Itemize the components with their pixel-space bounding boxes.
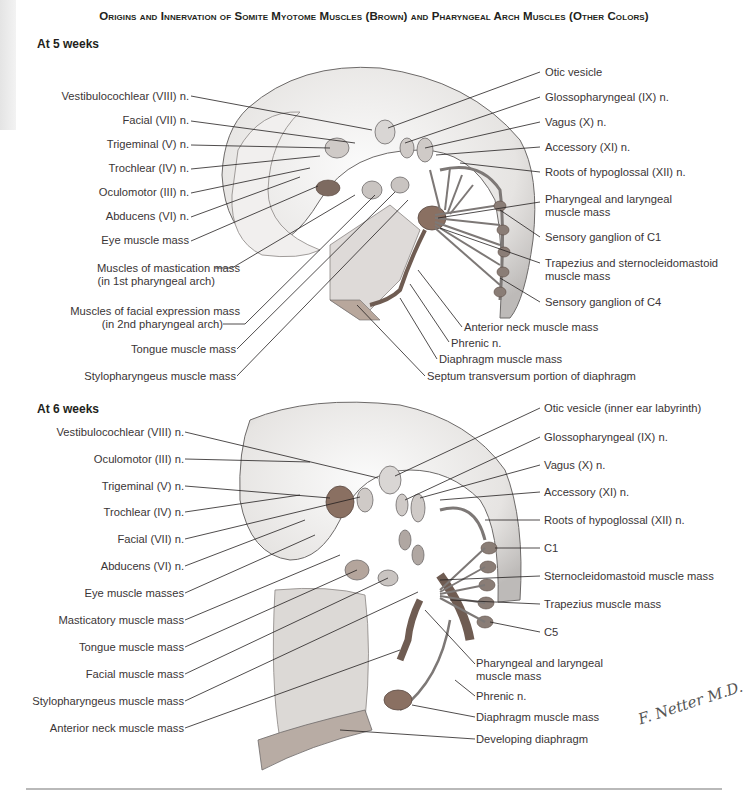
label-masticatory-muscle-mass: Masticatory muscle mass — [58, 614, 184, 627]
label-anterior-neck-muscle-mass: Anterior neck muscle mass — [464, 321, 598, 334]
label-vestibulocochlear-n-6w: Vestibulocochlear (VIII) n. — [57, 426, 184, 439]
label-otic-vesicle: Otic vesicle — [545, 66, 602, 79]
label-roots-of-hypoglossal-n-6w: Roots of hypoglossal (XII) n. — [544, 514, 685, 527]
label-developing-diaphragm: Developing diaphragm — [476, 733, 588, 746]
label-trapezius-muscle-mass: Trapezius muscle mass — [544, 598, 661, 611]
label-facial-n: Facial (VII) n. — [122, 114, 189, 127]
label-trigeminal-n: Trigeminal (V) n. — [107, 138, 189, 151]
label-facial-n-6w: Facial (VII) n. — [117, 533, 184, 546]
label-anterior-neck-muscle-mass-6w: Anterior neck muscle mass — [50, 722, 184, 735]
panel-heading-5-weeks: At 5 weeks — [37, 37, 99, 51]
label-roots-of-hypoglossal-n: Roots of hypoglossal (XII) n. — [545, 166, 686, 179]
label-diaphragm-muscle-mass-6w: Diaphragm muscle mass — [476, 711, 599, 724]
label-abducens-n: Abducens (VI) n. — [106, 210, 189, 223]
label-trochlear-n-6w: Trochlear (IV) n. — [104, 506, 184, 519]
label-mastication-mass-note: (in 1st pharyngeal arch) — [97, 275, 215, 288]
label-glossopharyngeal-n-6w: Glossopharyngeal (IX) n. — [544, 431, 668, 444]
label-c1: C1 — [544, 542, 558, 555]
label-sternocleidomastoid-muscle-mass: Sternocleidomastoid muscle mass — [544, 570, 714, 583]
label-septum-transversum: Septum transversum portion of diaphragm — [427, 370, 636, 383]
label-stylopharyngeus-muscle-mass-6w: Stylopharyngeus muscle mass — [32, 695, 184, 708]
label-stylopharyngeus-muscle-mass: Stylopharyngeus muscle mass — [84, 370, 236, 383]
label-pharyngeal-laryngeal-mass: Pharyngeal and laryngeal — [545, 193, 672, 206]
label-pharyngeal-laryngeal-mass-6w-line2: muscle mass — [476, 670, 541, 683]
label-tongue-muscle-mass-6w: Tongue muscle mass — [79, 641, 184, 654]
label-sensory-ganglion-c4: Sensory ganglion of C4 — [545, 296, 661, 309]
label-eye-muscle-masses: Eye muscle masses — [85, 587, 184, 600]
label-trapezius-sternocleidomastoid-mass-line2: muscle mass — [545, 270, 610, 283]
embryo-5-weeks — [222, 67, 535, 320]
label-facial-expression-mass: Muscles of facial expression mass — [70, 305, 240, 318]
label-phrenic-n-6w: Phrenic n. — [476, 690, 526, 703]
label-accessory-n-6w: Accessory (XI) n. — [544, 486, 629, 499]
label-tongue-muscle-mass: Tongue muscle mass — [131, 343, 236, 356]
label-trochlear-n: Trochlear (IV) n. — [109, 162, 189, 175]
label-otic-vesicle-6w: Otic vesicle (inner ear labyrinth) — [544, 402, 701, 415]
label-facial-muscle-mass: Facial muscle mass — [86, 668, 184, 681]
label-sensory-ganglion-c1: Sensory ganglion of C1 — [545, 231, 661, 244]
label-mastication-mass: Muscles of mastication mass — [97, 262, 240, 275]
label-pharyngeal-laryngeal-mass-6w: Pharyngeal and laryngeal — [476, 657, 603, 670]
label-facial-expression-mass-note: (in 2nd pharyngeal arch) — [102, 318, 223, 331]
label-trigeminal-n-6w: Trigeminal (V) n. — [102, 480, 184, 493]
label-oculomotor-n-6w: Oculomotor (III) n. — [94, 453, 184, 466]
label-vagus-n-6w: Vagus (X) n. — [544, 459, 605, 472]
label-accessory-n: Accessory (XI) n. — [545, 141, 630, 154]
panel-heading-6-weeks: At 6 weeks — [37, 402, 99, 416]
label-abducens-n-6w: Abducens (VI) n. — [101, 560, 184, 573]
label-glossopharyngeal-n: Glossopharyngeal (IX) n. — [545, 91, 669, 104]
label-vestibulocochlear-n: Vestibulocochlear (VIII) n. — [62, 90, 189, 103]
bottom-divider — [26, 788, 722, 790]
label-diaphragm-muscle-mass: Diaphragm muscle mass — [439, 353, 562, 366]
label-vagus-n: Vagus (X) n. — [545, 116, 606, 129]
label-phrenic-n: Phrenic n. — [451, 337, 501, 350]
label-trapezius-sternocleidomastoid-mass: Trapezius and sternocleidomastoid — [545, 257, 718, 270]
label-pharyngeal-laryngeal-mass-line2: muscle mass — [545, 206, 610, 219]
label-c5: C5 — [544, 626, 558, 639]
label-oculomotor-n: Oculomotor (III) n. — [99, 186, 189, 199]
label-eye-muscle-mass: Eye muscle mass — [101, 234, 189, 247]
